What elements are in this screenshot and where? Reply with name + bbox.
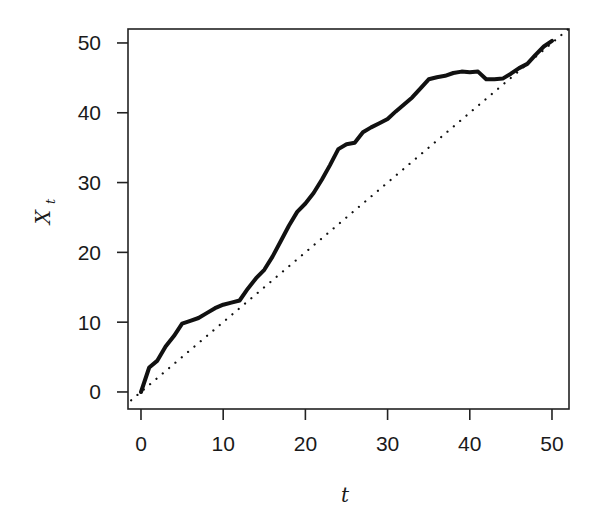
x-tick-label: 40 <box>458 432 481 455</box>
y-axis-label-subscript: t <box>43 198 58 204</box>
reference-diagonal-line <box>131 29 568 400</box>
x-tick-label: 20 <box>294 432 317 455</box>
data-series-line <box>141 41 552 392</box>
y-tick-label: 10 <box>78 311 101 334</box>
plot-frame <box>128 29 569 409</box>
y-tick-label: 50 <box>78 31 101 54</box>
y-axis-label-main: X <box>31 209 55 226</box>
x-axis: 01020304050 <box>135 409 564 455</box>
y-tick-label: 30 <box>78 171 101 194</box>
x-tick-label: 10 <box>212 432 235 455</box>
x-tick-label: 0 <box>135 432 147 455</box>
y-axis: 01020304050 <box>78 31 128 403</box>
y-tick-label: 40 <box>78 101 101 124</box>
y-tick-label: 20 <box>78 241 101 264</box>
x-axis-label: t <box>341 483 350 507</box>
x-tick-label: 50 <box>540 432 563 455</box>
y-axis-label: X t <box>31 198 58 226</box>
y-tick-label: 0 <box>89 380 101 403</box>
line-chart: 01020304050 01020304050 t X t <box>0 0 599 526</box>
x-tick-label: 30 <box>376 432 399 455</box>
